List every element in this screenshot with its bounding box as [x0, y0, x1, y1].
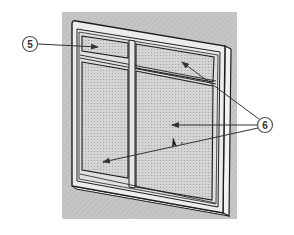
pane-lower-right-sash [136, 71, 213, 200]
window-diagram: 5 6 [0, 0, 294, 235]
diagram-canvas: 5 6 [0, 0, 294, 235]
pane-lower-left-sash [82, 62, 128, 178]
callout-label-6: 6 [262, 120, 268, 131]
callout-label-5: 5 [27, 39, 33, 50]
center-mullion [129, 40, 135, 188]
